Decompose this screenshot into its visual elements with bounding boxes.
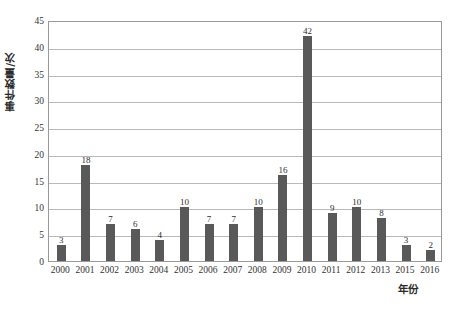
y-tick-label: 20 — [35, 150, 45, 160]
bar — [426, 250, 435, 261]
bar — [131, 229, 140, 261]
x-tick-label: 2015 — [396, 265, 415, 276]
bars-layer: 3187641077101642910832 — [49, 22, 441, 261]
x-tick-label: 2002 — [100, 265, 119, 276]
y-tick-label: 5 — [39, 230, 44, 240]
bar — [180, 207, 189, 261]
x-axis-tick-labels: 2000200120022003200420052006200720082009… — [48, 265, 442, 281]
x-axis-title: 年份 — [398, 283, 418, 295]
bar-value-label: 9 — [330, 203, 335, 213]
x-tick-label: 2007 — [223, 265, 242, 276]
y-tick-label: 45 — [35, 16, 45, 26]
bar-value-label: 3 — [404, 235, 409, 245]
x-tick-label: 2004 — [149, 265, 168, 276]
bar-value-label: 8 — [379, 208, 384, 218]
plot-area: 3187641077101642910832 — [48, 21, 442, 262]
bar — [377, 218, 386, 261]
y-axis-title: 事件数量/次 — [4, 52, 20, 111]
bar-value-label: 10 — [254, 197, 263, 207]
x-tick-label: 2011 — [322, 265, 341, 276]
bar-value-label: 3 — [59, 235, 64, 245]
bar-value-label: 7 — [207, 214, 212, 224]
bar — [155, 240, 164, 261]
bar — [352, 207, 361, 261]
x-tick-label: 2008 — [248, 265, 267, 276]
x-tick-label: 2010 — [297, 265, 316, 276]
bar — [106, 224, 115, 261]
bar — [254, 207, 263, 261]
bar-value-label: 10 — [352, 197, 361, 207]
y-tick-label: 35 — [35, 70, 45, 80]
x-tick-label: 2016 — [420, 265, 439, 276]
bar-value-label: 2 — [428, 240, 433, 250]
bar — [328, 213, 337, 261]
y-tick-label: 0 — [39, 257, 44, 267]
y-tick-label: 10 — [35, 203, 45, 213]
bar — [81, 165, 90, 261]
y-tick-label: 15 — [35, 177, 45, 187]
x-tick-label: 2012 — [346, 265, 365, 276]
bar — [278, 175, 287, 261]
bar — [229, 224, 238, 261]
bar-value-label: 4 — [158, 230, 163, 240]
bar-value-label: 6 — [133, 219, 138, 229]
bar-value-label: 7 — [231, 214, 236, 224]
bar — [402, 245, 411, 261]
bar-value-label: 42 — [303, 26, 312, 36]
x-tick-label: 2009 — [272, 265, 291, 276]
y-tick-label: 25 — [35, 123, 45, 133]
bar-chart: 事件数量/次 051015202530354045 31876410771016… — [0, 0, 461, 309]
bar-value-label: 10 — [180, 197, 189, 207]
bar — [205, 224, 214, 261]
x-tick-label: 2003 — [125, 265, 144, 276]
bar-value-label: 7 — [108, 214, 113, 224]
y-tick-label: 30 — [35, 96, 45, 106]
bar-value-label: 16 — [278, 165, 287, 175]
x-tick-label: 2006 — [199, 265, 218, 276]
bar — [57, 245, 66, 261]
bar-value-label: 18 — [81, 155, 90, 165]
bar — [303, 36, 312, 261]
x-tick-label: 2000 — [51, 265, 70, 276]
x-tick-label: 2005 — [174, 265, 193, 276]
x-tick-label: 2001 — [75, 265, 94, 276]
y-tick-label: 40 — [35, 43, 45, 53]
y-axis-tick-labels: 051015202530354045 — [22, 0, 46, 309]
x-tick-label: 2013 — [371, 265, 390, 276]
